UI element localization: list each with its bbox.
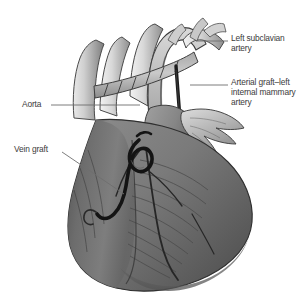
ventricles-group [68,119,252,291]
pulmonary-stump [100,37,130,116]
label-aorta: Aorta [22,99,41,109]
label-left-subclavian-artery: Left subclavian artery [231,33,285,53]
figure-canvas: Left subclavian artery Arterial graft–le… [0,0,304,306]
superior-vena-cava [73,40,104,120]
label-vein-graft: Vein graft [14,144,48,154]
label-arterial-graft-lima: Arterial graft–left internal mammary art… [231,77,296,108]
